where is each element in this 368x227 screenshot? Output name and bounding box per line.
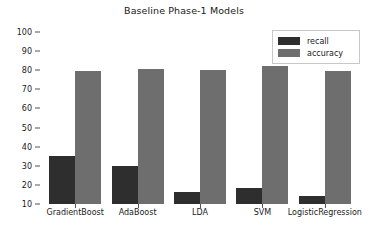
x-axis-tick-label-LDA: LDA xyxy=(192,208,208,217)
y-axis-tick-label: 50 xyxy=(6,123,32,132)
bar-recall-SVM xyxy=(236,188,262,204)
y-axis-tick-label: 30 xyxy=(6,161,32,170)
y-axis-tick-mark xyxy=(35,51,40,52)
y-axis-tick-mark xyxy=(35,70,40,71)
bar-recall-LDA xyxy=(174,192,200,204)
x-axis-tick-label-AdaBoost: AdaBoost xyxy=(119,208,157,217)
bar-accuracy-SVM xyxy=(262,66,288,204)
legend-label-accuracy: accuracy xyxy=(307,49,343,58)
y-axis-tick-mark xyxy=(35,146,40,147)
bar-recall-LogisticRegression xyxy=(299,196,325,204)
chart-title: Baseline Phase-1 Models xyxy=(0,5,368,16)
bar-accuracy-AdaBoost xyxy=(138,69,164,204)
y-axis-tick-mark xyxy=(35,184,40,185)
x-axis-tick-label-GradientBoost: GradientBoost xyxy=(46,208,103,217)
y-axis-tick-mark xyxy=(35,32,40,33)
x-axis-tick-label-SVM: SVM xyxy=(254,208,271,217)
y-axis-tick-mark xyxy=(35,89,40,90)
y-axis-tick-label: 40 xyxy=(6,142,32,151)
y-axis-tick-mark xyxy=(35,165,40,166)
y-axis-tick-label: 100 xyxy=(6,28,32,37)
y-axis-tick-mark xyxy=(35,127,40,128)
legend-swatch-recall xyxy=(278,37,300,45)
y-axis-tick-mark xyxy=(35,108,40,109)
y-axis-tick-mark xyxy=(35,204,40,205)
y-axis-tick-label: 90 xyxy=(6,47,32,56)
legend-swatch-accuracy xyxy=(278,49,300,57)
y-axis-tick-label: 10 xyxy=(6,200,32,209)
chart-figure: Baseline Phase-1 Models 1020304050607080… xyxy=(0,0,368,227)
y-axis-tick-label: 60 xyxy=(6,104,32,113)
bar-recall-AdaBoost xyxy=(112,166,138,204)
y-axis-tick-label: 20 xyxy=(6,180,32,189)
bar-accuracy-LDA xyxy=(200,70,226,204)
chart-legend: recall accuracy xyxy=(272,30,360,64)
y-axis-tick-label: 80 xyxy=(6,66,32,75)
bar-recall-GradientBoost xyxy=(49,156,75,204)
legend-label-recall: recall xyxy=(307,37,329,46)
legend-item-accuracy: accuracy xyxy=(278,47,354,59)
y-axis-tick-label: 70 xyxy=(6,85,32,94)
bar-accuracy-GradientBoost xyxy=(75,71,101,204)
x-axis-tick-label-LogisticRegression: LogisticRegression xyxy=(288,208,362,217)
bar-accuracy-LogisticRegression xyxy=(325,71,351,204)
legend-item-recall: recall xyxy=(278,35,354,47)
